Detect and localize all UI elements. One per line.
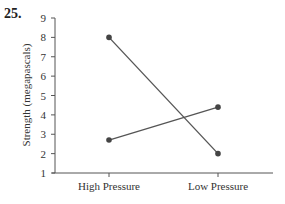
data-point-marker (106, 35, 112, 41)
data-point-marker (215, 104, 221, 110)
y-tick-label: 5 (41, 90, 47, 102)
y-tick-label: 7 (41, 51, 47, 63)
x-category-label: Low Pressure (188, 180, 248, 192)
y-tick-label: 6 (41, 70, 47, 82)
y-axis-title: Strength (megapascals) (20, 43, 33, 146)
interaction-line-chart: 123456789 High PressureLow Pressure Stre… (0, 0, 285, 204)
x-category-label: High Pressure (78, 180, 140, 192)
y-tick-label: 9 (41, 12, 47, 24)
y-tick-label: 3 (41, 128, 47, 140)
series-line (106, 35, 221, 157)
y-tick-label: 4 (41, 109, 47, 121)
y-tick-label: 1 (41, 167, 47, 179)
y-axis: 123456789 (41, 12, 56, 179)
y-tick-label: 2 (41, 148, 47, 160)
data-point-marker (106, 137, 112, 143)
series-layer (106, 35, 221, 157)
series-line (106, 104, 221, 143)
y-tick-label: 8 (41, 31, 47, 43)
x-axis: High PressureLow Pressure (52, 173, 273, 192)
data-point-marker (215, 151, 221, 157)
